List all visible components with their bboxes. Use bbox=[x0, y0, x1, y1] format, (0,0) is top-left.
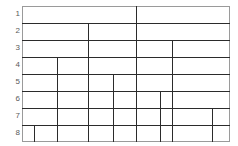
cell-divider bbox=[172, 57, 173, 74]
row-label-8: 8 bbox=[0, 129, 20, 137]
cell-divider bbox=[212, 108, 213, 125]
cell-divider bbox=[88, 74, 89, 91]
cell-divider bbox=[88, 91, 89, 108]
cell-divider bbox=[57, 108, 58, 125]
cell-divider bbox=[172, 91, 173, 108]
cell-divider bbox=[136, 23, 137, 40]
cell-divider bbox=[172, 125, 173, 142]
cell-divider bbox=[172, 108, 173, 125]
row-label-6-text: 6 bbox=[16, 94, 20, 103]
row-label-2-text: 2 bbox=[16, 26, 20, 35]
cell-divider bbox=[88, 40, 89, 57]
row-label-1: 1 bbox=[0, 10, 20, 18]
cell-divider bbox=[136, 74, 137, 91]
row-separator bbox=[22, 125, 230, 126]
cell-divider bbox=[57, 91, 58, 108]
cell-divider bbox=[113, 74, 114, 91]
cell-divider bbox=[88, 57, 89, 74]
row-separator bbox=[22, 57, 230, 58]
cell-divider bbox=[88, 23, 89, 40]
cell-divider bbox=[172, 40, 173, 57]
cell-divider bbox=[113, 125, 114, 142]
cell-divider bbox=[113, 91, 114, 108]
cell-divider bbox=[172, 74, 173, 91]
row-label-4: 4 bbox=[0, 61, 20, 69]
row-label-6: 6 bbox=[0, 95, 20, 103]
row-label-7-text: 7 bbox=[16, 111, 20, 120]
row-label-8-text: 8 bbox=[16, 128, 20, 137]
cell-divider bbox=[136, 125, 137, 142]
row-label-3: 3 bbox=[0, 44, 20, 52]
cell-divider bbox=[136, 6, 137, 23]
cell-divider bbox=[88, 108, 89, 125]
row-label-1-text: 1 bbox=[16, 9, 20, 18]
row-label-5-text: 5 bbox=[16, 77, 20, 86]
row-separator bbox=[22, 108, 230, 109]
cell-divider bbox=[136, 57, 137, 74]
row-label-7: 7 bbox=[0, 112, 20, 120]
row-separator bbox=[22, 23, 230, 24]
cell-divider bbox=[212, 125, 213, 142]
cell-divider bbox=[57, 74, 58, 91]
partition-diagram: 1 2 3 4 5 6 7 8 bbox=[0, 0, 238, 146]
row-label-5: 5 bbox=[0, 78, 20, 86]
cell-divider bbox=[160, 91, 161, 108]
cell-divider bbox=[160, 125, 161, 142]
cell-divider bbox=[160, 108, 161, 125]
cell-divider bbox=[57, 57, 58, 74]
row-separator bbox=[22, 91, 230, 92]
cell-divider bbox=[88, 125, 89, 142]
cell-divider bbox=[136, 108, 137, 125]
row-label-3-text: 3 bbox=[16, 43, 20, 52]
cell-divider bbox=[136, 91, 137, 108]
cell-divider bbox=[57, 125, 58, 142]
row-label-2: 2 bbox=[0, 27, 20, 35]
cell-divider bbox=[113, 108, 114, 125]
row-label-4-text: 4 bbox=[16, 60, 20, 69]
cell-divider bbox=[34, 125, 35, 142]
cell-divider bbox=[136, 40, 137, 57]
row-separator bbox=[22, 74, 230, 75]
row-separator bbox=[22, 40, 230, 41]
